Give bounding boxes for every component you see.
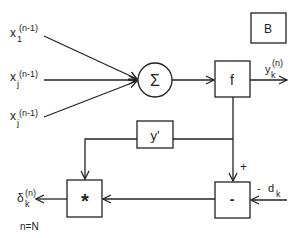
svg-text:x: x bbox=[10, 26, 16, 40]
input-label-1: x 1 (n-1) bbox=[10, 23, 38, 44]
svg-text:δ: δ bbox=[17, 191, 24, 205]
svg-text:*: * bbox=[81, 190, 89, 212]
svg-text:x: x bbox=[10, 70, 16, 84]
svg-text:B: B bbox=[264, 22, 272, 36]
svg-text:-: - bbox=[257, 182, 261, 194]
subtract-box: - bbox=[215, 182, 250, 218]
target-label: - d k bbox=[257, 182, 281, 199]
corner-label-box: B bbox=[251, 13, 286, 43]
svg-text:1: 1 bbox=[17, 34, 22, 44]
svg-text:(n-1): (n-1) bbox=[19, 69, 38, 79]
svg-text:(n): (n) bbox=[272, 58, 283, 68]
multiply-box: * bbox=[67, 180, 102, 217]
condition-label: n=N bbox=[20, 221, 39, 232]
svg-text:k: k bbox=[271, 70, 276, 80]
svg-text:y': y' bbox=[151, 128, 160, 143]
svg-text:d: d bbox=[268, 182, 274, 194]
svg-text:(n-1): (n-1) bbox=[19, 23, 38, 33]
svg-text:Σ: Σ bbox=[150, 72, 160, 89]
backprop-output-layer-diagram: x 1 (n-1) x j (n-1) x j (n-1) Σ f y k (n… bbox=[0, 0, 297, 238]
svg-text:-: - bbox=[230, 191, 235, 207]
plus-sign: + bbox=[240, 160, 247, 174]
svg-text:(n-1): (n-1) bbox=[19, 108, 38, 118]
output-label: y k (n) bbox=[265, 58, 283, 80]
svg-text:(n): (n) bbox=[25, 188, 36, 198]
input-label-2: x j (n-1) bbox=[10, 69, 38, 89]
svg-text:j: j bbox=[16, 79, 19, 89]
svg-text:f: f bbox=[230, 72, 234, 88]
delta-label: δ k (n) bbox=[17, 188, 36, 209]
input-label-3: x j (n-1) bbox=[10, 108, 38, 128]
sum-node: Σ bbox=[138, 63, 172, 97]
svg-text:x: x bbox=[10, 109, 16, 123]
svg-text:k: k bbox=[276, 189, 281, 199]
input-arrow-3 bbox=[44, 81, 137, 117]
derivative-to-multiply-arrow bbox=[85, 139, 137, 179]
svg-text:j: j bbox=[16, 118, 19, 128]
input-arrow-1 bbox=[44, 36, 137, 79]
svg-text:k: k bbox=[25, 199, 30, 209]
activation-box: f bbox=[215, 61, 250, 97]
derivative-box: y' bbox=[137, 121, 173, 148]
